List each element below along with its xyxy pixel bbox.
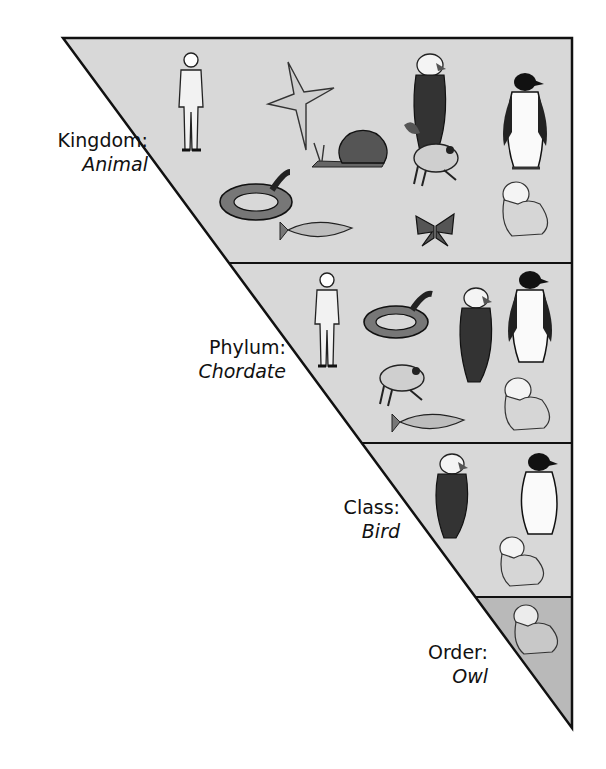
label-kingdom: Kingdom: Animal: [20, 128, 148, 176]
rank-name: Kingdom:: [20, 128, 148, 152]
label-class: Class: Bird: [320, 495, 400, 543]
taxon-name: Chordate: [150, 359, 286, 383]
taxon-name: Owl: [408, 664, 488, 688]
taxon-name: Bird: [320, 519, 400, 543]
taxon-name: Animal: [20, 152, 148, 176]
label-order: Order: Owl: [408, 640, 488, 688]
rank-name: Phylum:: [150, 335, 286, 359]
label-phylum: Phylum: Chordate: [150, 335, 286, 383]
taxonomy-diagram: Kingdom: Animal Phylum: Chordate Class: …: [0, 0, 606, 769]
rank-name: Order:: [408, 640, 488, 664]
rank-name: Class:: [320, 495, 400, 519]
pyramid-shape: [0, 0, 606, 769]
